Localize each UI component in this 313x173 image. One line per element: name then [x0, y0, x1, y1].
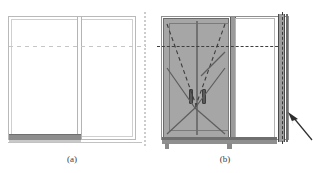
caption-a: (a): [52, 154, 92, 164]
clear-glass-panel-b: [235, 18, 275, 138]
door-chevron-lower-right: [195, 108, 225, 134]
bottom-sill-cap-b: [162, 137, 277, 140]
figure-container: (a) (b): [0, 0, 313, 173]
right-dotted-edge-line-a: [144, 12, 146, 146]
vertical-dashed-reference-line-b: [282, 12, 283, 144]
horizontal-dashed-reference-line-b: [157, 46, 283, 47]
sill-foot-left: [165, 143, 169, 149]
door-swing-dashed-left: [167, 24, 197, 108]
sill-foot-middle: [227, 143, 232, 149]
door-chevron-upper: [167, 68, 225, 108]
subfigure-a: [8, 16, 136, 140]
horizontal-dashed-reference-line-a: [9, 46, 146, 47]
caption-b: (b): [205, 154, 245, 164]
vertical-mullion-a: [77, 17, 82, 139]
callout-arrow: [286, 112, 313, 142]
ground-line-a: [8, 142, 142, 143]
bottom-sill-bar-a: [9, 134, 81, 140]
door-chevron-lower-left: [167, 108, 195, 134]
subfigure-b: [161, 16, 289, 140]
door-swing-dashed-right: [195, 24, 225, 108]
inner-frame-line-a: [11, 19, 133, 137]
